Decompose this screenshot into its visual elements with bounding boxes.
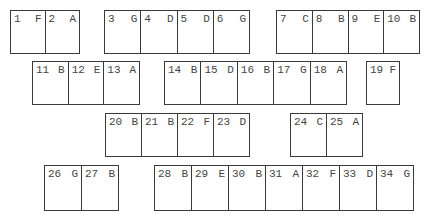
cell: 13A xyxy=(103,62,139,104)
cell-letter: D xyxy=(239,116,246,128)
cell-number: 7 xyxy=(280,13,287,25)
cell-group: 11B12E13A xyxy=(32,61,140,105)
cell: 17G xyxy=(273,62,309,104)
cell: 1F xyxy=(11,11,45,53)
cell: 5D xyxy=(177,11,213,53)
cell: 25A xyxy=(326,114,362,156)
cell: 29E xyxy=(191,166,228,210)
cell-number: 18 xyxy=(314,64,327,76)
cell-letter: G xyxy=(403,168,410,180)
cell: 8B xyxy=(312,11,348,53)
cell: 34G xyxy=(376,166,413,210)
cell-number: 34 xyxy=(380,168,393,180)
cell-letter: B xyxy=(167,116,174,128)
cell-number: 6 xyxy=(217,13,224,25)
cell: 9E xyxy=(348,11,384,53)
cell-number: 17 xyxy=(277,64,290,76)
cell-letter: E xyxy=(218,168,225,180)
cell: 31A xyxy=(265,166,302,210)
cell-group: 26G27B xyxy=(44,165,119,211)
cell-number: 30 xyxy=(232,168,245,180)
cell-number: 2 xyxy=(49,13,56,25)
cell-letter: F xyxy=(35,13,42,25)
cell-number: 13 xyxy=(107,64,120,76)
cell-letter: A xyxy=(69,13,76,25)
cell: 19F xyxy=(367,62,399,104)
cell-letter: B xyxy=(264,64,271,76)
cell-number: 27 xyxy=(85,168,98,180)
cell-number: 4 xyxy=(144,13,151,25)
cell-letter: G xyxy=(131,13,138,25)
cell-number: 15 xyxy=(204,64,217,76)
cell-group: 20B21B22F23D xyxy=(105,113,250,157)
cell-letter: A xyxy=(336,64,343,76)
cell-number: 32 xyxy=(306,168,319,180)
cell: 4D xyxy=(140,11,176,53)
cell-number: 3 xyxy=(108,13,115,25)
cell: 12E xyxy=(68,62,104,104)
cell-number: 22 xyxy=(181,116,194,128)
cell: 16B xyxy=(237,62,273,104)
cell-letter: B xyxy=(108,168,115,180)
cell-letter: G xyxy=(239,13,246,25)
cell-number: 31 xyxy=(269,168,282,180)
cell-group: 7C8B9E10B xyxy=(276,10,420,54)
cell-group: 1F2A xyxy=(10,10,80,54)
cell: 23D xyxy=(213,114,249,156)
cell-number: 8 xyxy=(316,13,323,25)
cell-number: 9 xyxy=(352,13,359,25)
cell-letter: E xyxy=(374,13,381,25)
cell-letter: D xyxy=(167,13,174,25)
cell-number: 29 xyxy=(195,168,208,180)
cell: 24C xyxy=(291,114,326,156)
cell-letter: D xyxy=(366,168,373,180)
cell-letter: F xyxy=(203,116,210,128)
cell-number: 11 xyxy=(36,64,49,76)
cell-letter: B xyxy=(338,13,345,25)
cell-letter: E xyxy=(94,64,101,76)
cell-number: 16 xyxy=(241,64,254,76)
cell-letter: B xyxy=(131,116,138,128)
cell-number: 28 xyxy=(158,168,171,180)
cell: 30B xyxy=(228,166,265,210)
cell-letter: G xyxy=(300,64,307,76)
cell: 2A xyxy=(45,11,80,53)
cell-number: 23 xyxy=(217,116,230,128)
cell-letter: B xyxy=(409,13,416,25)
cell-letter: F xyxy=(389,64,396,76)
cell-group: 28B29E30B31A32F33D34G xyxy=(154,165,414,211)
cell: 7C xyxy=(277,11,312,53)
cell-letter: A xyxy=(352,116,359,128)
cell-number: 33 xyxy=(343,168,356,180)
cell-number: 25 xyxy=(330,116,343,128)
cell-letter: G xyxy=(71,168,78,180)
cell: 15D xyxy=(200,62,236,104)
cell-letter: B xyxy=(191,64,198,76)
cell-letter: B xyxy=(255,168,262,180)
cell-number: 20 xyxy=(109,116,122,128)
cell: 28B xyxy=(155,166,191,210)
cell-letter: C xyxy=(302,13,309,25)
cell-number: 24 xyxy=(294,116,307,128)
cell-number: 10 xyxy=(387,13,400,25)
cell-number: 1 xyxy=(14,13,21,25)
cell: 11B xyxy=(33,62,68,104)
cell-letter: F xyxy=(329,168,336,180)
cell-group: 19F xyxy=(366,61,400,105)
cell: 22F xyxy=(177,114,213,156)
cell: 18A xyxy=(310,62,346,104)
cell-number: 5 xyxy=(181,13,188,25)
cell-letter: C xyxy=(316,116,323,128)
cell-letter: D xyxy=(227,64,234,76)
cell: 21B xyxy=(141,114,177,156)
cell-number: 26 xyxy=(48,168,61,180)
cell: 6G xyxy=(213,11,249,53)
cell-number: 12 xyxy=(72,64,85,76)
cell-letter: B xyxy=(58,64,65,76)
cell-number: 14 xyxy=(168,64,181,76)
cell-letter: D xyxy=(203,13,210,25)
cell-number: 21 xyxy=(145,116,158,128)
cell: 27B xyxy=(81,166,118,210)
cell-number: 19 xyxy=(370,64,383,76)
cell-group: 3G4D5D6G xyxy=(104,10,250,54)
